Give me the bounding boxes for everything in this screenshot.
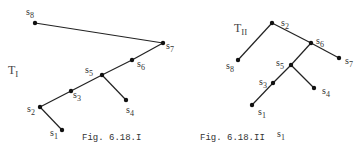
node-label-s3: s3 [259, 76, 267, 90]
node-label-s6: s6 [137, 58, 145, 72]
fig-6-18-I: s8s7s6s5s3s2s1s4TIFig. 6.18.I [8, 6, 174, 143]
node-label-s4: s4 [322, 85, 330, 99]
node-label-s4: s4 [126, 104, 134, 118]
node-label-s7: s7 [166, 40, 174, 54]
node-s8 [33, 21, 37, 25]
node-s6 [309, 41, 313, 45]
edge-s6-s5 [102, 60, 132, 75]
node-s4 [124, 98, 128, 102]
node-s5 [100, 73, 104, 77]
edge-s5-s4 [291, 65, 314, 88]
node-s6 [130, 58, 134, 62]
tree-label: TII [234, 21, 247, 37]
edge-s5-s4 [102, 75, 126, 100]
node-s3 [271, 81, 275, 85]
tree-diagram: s8s7s6s5s3s2s1s4TIFig. 6.18.Is2s8s6s7s5s… [0, 0, 359, 148]
node-label-s2: s2 [27, 103, 35, 117]
node-label-s5: s5 [276, 57, 284, 71]
tree-label: TI [8, 63, 18, 79]
node-s7 [337, 56, 341, 60]
caption-extra-label: s1 [277, 128, 285, 142]
edge-s3-s2 [40, 91, 71, 107]
edge-s6-s5 [291, 43, 311, 65]
node-label-s8: s8 [26, 6, 34, 20]
node-s1 [250, 103, 254, 107]
node-s2 [270, 21, 274, 25]
figure-caption: Fig. 6.18.II [200, 133, 265, 143]
node-s7 [161, 41, 165, 45]
node-label-s7: s7 [345, 55, 353, 69]
node-label-s3: s3 [73, 89, 81, 103]
node-s1 [60, 128, 64, 132]
node-s8 [236, 58, 240, 62]
node-s2 [38, 105, 42, 109]
edge-s8-s7 [35, 23, 163, 43]
edge-s2-s6 [272, 23, 311, 43]
node-s4 [312, 86, 316, 90]
node-label-s2: s2 [281, 17, 289, 31]
figure-caption: Fig. 6.18.I [82, 133, 141, 143]
node-label-s1: s1 [258, 106, 266, 120]
fig-6-18-II: s2s8s6s7s5s3s4s1TIIFig. 6.18.IIs1 [200, 17, 353, 143]
node-s5 [289, 63, 293, 67]
node-label-s5: s5 [85, 64, 93, 78]
node-label-s1: s1 [50, 127, 58, 141]
node-label-s8: s8 [226, 60, 234, 74]
